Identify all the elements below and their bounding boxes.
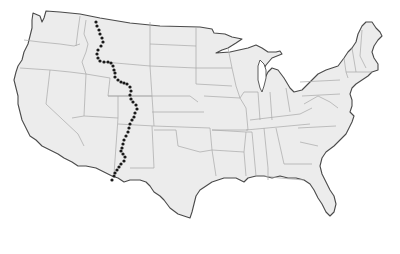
divide-dot	[132, 115, 135, 118]
divide-dot	[112, 68, 115, 71]
divide-dot	[110, 178, 113, 181]
divide-dot	[115, 168, 118, 171]
divide-dot	[112, 174, 115, 177]
divide-dot	[134, 103, 137, 106]
divide-dot	[125, 82, 128, 85]
divide-dot	[123, 155, 126, 158]
divide-dot	[131, 100, 134, 103]
divide-dot	[128, 85, 131, 88]
divide-dot	[109, 61, 112, 64]
divide-dot	[128, 93, 131, 96]
divide-dot	[96, 48, 99, 51]
divide-dot	[102, 60, 105, 63]
divide-dot	[94, 20, 97, 23]
divide-dot	[95, 52, 98, 55]
divide-dot	[98, 59, 101, 62]
divide-dot	[113, 75, 116, 78]
divide-dot	[95, 24, 98, 27]
divide-dot	[129, 89, 132, 92]
divide-dot	[128, 122, 131, 125]
divide-dot	[122, 159, 125, 162]
divide-dot	[121, 152, 124, 155]
divide-dot	[97, 28, 100, 31]
divide-dot	[101, 40, 104, 43]
divide-dot	[119, 80, 122, 83]
divide-dot	[100, 36, 103, 39]
us-map	[0, 0, 400, 254]
divide-dot	[122, 81, 125, 84]
divide-dot	[116, 78, 119, 81]
divide-dot	[126, 130, 129, 133]
divide-dot	[113, 71, 116, 74]
divide-dot	[121, 142, 124, 145]
divide-dot	[135, 107, 138, 110]
divide-dot	[98, 32, 101, 35]
divide-dot	[129, 97, 132, 100]
divide-dot	[113, 171, 116, 174]
us-map-svg	[0, 0, 400, 254]
divide-dot	[127, 126, 130, 129]
divide-dot	[111, 64, 114, 67]
divide-dot	[130, 118, 133, 121]
divide-dot	[122, 138, 125, 141]
divide-dot	[117, 165, 120, 168]
divide-dot	[133, 111, 136, 114]
divide-dot	[124, 134, 127, 137]
divide-dot	[99, 44, 102, 47]
divide-dot	[119, 162, 122, 165]
divide-dot	[119, 149, 122, 152]
divide-dot	[120, 146, 123, 149]
divide-dot	[106, 60, 109, 63]
divide-dot	[96, 56, 99, 59]
us-landmass	[14, 11, 382, 218]
